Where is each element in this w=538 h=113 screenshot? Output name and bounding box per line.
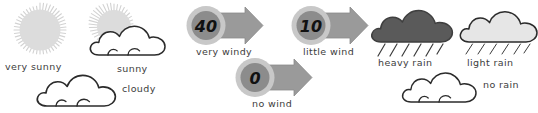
cloud-icon <box>398 64 478 108</box>
wind-value-very-windy: 40 <box>194 17 217 36</box>
rain-cloud-icon <box>366 2 454 58</box>
rain-cloud-icon <box>455 2 538 58</box>
symbol-no-rain <box>398 64 478 108</box>
symbol-light-rain <box>455 2 538 58</box>
symbol-heavy-rain <box>366 2 454 58</box>
symbol-little-wind: 10 <box>288 5 374 47</box>
wind-value-little-wind: 10 <box>300 17 322 36</box>
wind-arrow-icon: 10 <box>288 5 374 47</box>
label-very-windy: very windy <box>196 47 252 57</box>
sun-icon <box>6 1 74 59</box>
label-sunny: sunny <box>117 64 148 74</box>
label-no-wind: no wind <box>252 99 292 109</box>
symbol-sunny <box>84 3 176 61</box>
wind-arrow-icon: 40 <box>183 5 269 47</box>
weather-symbols-legend: very sunny <box>0 0 538 113</box>
symbol-very-sunny <box>6 1 74 59</box>
label-little-wind: little wind <box>303 47 354 57</box>
label-cloudy: cloudy <box>122 84 156 94</box>
sun-behind-cloud-icon <box>84 3 176 61</box>
symbol-cloudy <box>33 66 121 110</box>
symbol-no-wind: 0 <box>232 57 318 99</box>
symbol-very-windy: 40 <box>183 5 269 47</box>
label-no-rain: no rain <box>483 80 519 90</box>
wind-value-no-wind: 0 <box>249 69 260 88</box>
cloud-icon <box>33 66 121 110</box>
wind-arrow-icon: 0 <box>232 57 318 99</box>
